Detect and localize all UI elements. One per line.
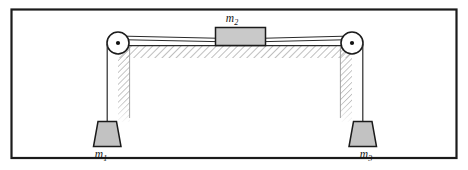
hanging-weight-m3 — [349, 122, 377, 147]
label-m2-base: m — [226, 12, 234, 24]
hanging-weight-m3-body — [349, 122, 377, 147]
right-pulley — [341, 32, 363, 54]
hanging-weight-m1 — [94, 122, 122, 147]
figure-root: m2 m1 m3 — [0, 0, 468, 170]
pulley-system-diagram: m2 m1 m3 — [0, 0, 468, 170]
table-top-hatch — [118, 46, 352, 58]
block-m2-body — [216, 28, 266, 46]
label-m3-base: m — [360, 148, 368, 160]
left-pulley-axle-icon — [116, 41, 120, 45]
hanging-weight-m1-body — [94, 122, 122, 147]
left-pulley — [107, 32, 129, 54]
label-m3-subscript: 3 — [367, 154, 372, 163]
label-m2-subscript: 2 — [234, 18, 238, 27]
block-m2 — [216, 28, 266, 46]
label-m1-subscript: 1 — [103, 154, 107, 163]
right-pulley-axle-icon — [350, 41, 354, 45]
label-m1-base: m — [95, 148, 103, 160]
